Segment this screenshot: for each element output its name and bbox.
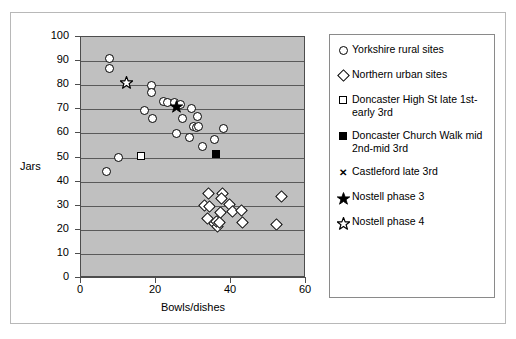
legend-item[interactable]: Nostell phase 3: [336, 190, 488, 204]
legend-item-label: Castleford late 3rd: [352, 165, 438, 178]
y-axis-tick-label: 60: [29, 126, 69, 137]
square-open-icon: [336, 93, 351, 107]
x-axis-title: Bowls/dishes: [80, 302, 306, 313]
legend-item[interactable]: Doncaster High St late 1st-early 3rd: [336, 93, 488, 118]
square-filled-icon: [339, 132, 347, 140]
y-axis-tick-label: 100: [29, 30, 69, 41]
data-points-layer: [81, 37, 304, 276]
y-axis-tick: [75, 132, 80, 133]
data-point: [105, 64, 114, 73]
y-axis-tick: [75, 84, 80, 85]
legend-item[interactable]: Doncaster Church Walk mid 2nd-mid 3rd: [336, 129, 488, 154]
x-axis-tick-label: 20: [140, 284, 170, 295]
diamond-open-icon: [337, 69, 350, 82]
y-axis-tick-label: 40: [29, 175, 69, 186]
legend-box: Yorkshire rural sitesNorthern urban site…: [329, 34, 495, 298]
y-axis-tick-label: 20: [29, 223, 69, 234]
y-axis-tick: [75, 60, 80, 61]
data-point: [275, 190, 288, 203]
star-filled-icon: [336, 190, 351, 204]
data-point: [193, 112, 202, 121]
y-axis-tick: [75, 108, 80, 109]
y-axis-tick-label: 30: [29, 199, 69, 210]
y-axis-tick-label: 10: [29, 247, 69, 258]
y-axis-tick-label: 80: [29, 78, 69, 89]
data-point: [147, 88, 156, 97]
diamond-open-icon: [336, 68, 351, 82]
x-axis-line: [80, 277, 306, 278]
star-open-icon: [336, 215, 351, 229]
x-axis-tick-label: 0: [65, 284, 95, 295]
data-point: [198, 142, 207, 151]
y-axis-tick-label: 90: [29, 54, 69, 65]
y-axis-tick: [75, 253, 80, 254]
star-filled-icon: [337, 191, 350, 204]
data-point: [102, 167, 111, 176]
data-point: [140, 106, 149, 115]
data-point: [219, 124, 228, 133]
data-point: [270, 219, 283, 232]
circle-open-icon: [339, 46, 348, 55]
cross-icon: ✕: [336, 165, 351, 179]
data-point: [148, 114, 157, 123]
y-axis-tick: [75, 36, 80, 37]
legend-item-label: Yorkshire rural sites: [352, 43, 444, 56]
y-axis-tick: [75, 181, 80, 182]
data-point: [178, 114, 187, 123]
data-point: [210, 135, 219, 144]
data-point: [187, 104, 196, 113]
y-axis-tick: [75, 229, 80, 230]
y-axis-tick-label: 70: [29, 102, 69, 113]
y-axis-tick-label: 0: [29, 271, 69, 282]
data-point: [172, 129, 181, 138]
data-point: [185, 133, 194, 142]
legend-item-label: Doncaster High St late 1st-early 3rd: [352, 93, 488, 118]
data-point: [105, 54, 114, 63]
legend-item-label: Doncaster Church Walk mid 2nd-mid 3rd: [352, 129, 488, 154]
square-filled-icon: [336, 129, 351, 143]
y-axis-tick: [75, 205, 80, 206]
data-point: [235, 204, 248, 217]
chart-area: 0102030405060708090100 0204060 Jars Bowl…: [18, 18, 318, 318]
data-point: [170, 99, 183, 112]
data-point: [236, 216, 249, 229]
square-open-icon: [339, 96, 347, 104]
y-axis-line: [80, 36, 81, 277]
scatter-plot-figure: 0102030405060708090100 0204060 Jars Bowl…: [0, 0, 516, 339]
plot-area: [80, 36, 305, 277]
data-point: [120, 75, 133, 88]
legend-item[interactable]: Nostell phase 4: [336, 215, 488, 229]
y-axis-tick: [75, 157, 80, 158]
data-point: [194, 122, 203, 131]
data-point: [212, 150, 220, 158]
data-point: [137, 152, 145, 160]
legend-item-label: Nostell phase 4: [352, 215, 424, 228]
cross-icon: ✕: [339, 168, 348, 177]
legend-item[interactable]: Yorkshire rural sites: [336, 43, 488, 57]
y-axis-title: Jars: [20, 161, 41, 172]
legend-item-label: Northern urban sites: [352, 68, 447, 81]
star-open-icon: [337, 216, 350, 229]
x-axis-tick-label: 40: [215, 284, 245, 295]
legend-item-label: Nostell phase 3: [352, 190, 424, 203]
x-axis-tick-label: 60: [290, 284, 320, 295]
circle-open-icon: [336, 43, 351, 57]
legend-item[interactable]: Northern urban sites: [336, 68, 488, 82]
data-point: [114, 153, 123, 162]
legend-item[interactable]: ✕Castleford late 3rd: [336, 165, 488, 179]
